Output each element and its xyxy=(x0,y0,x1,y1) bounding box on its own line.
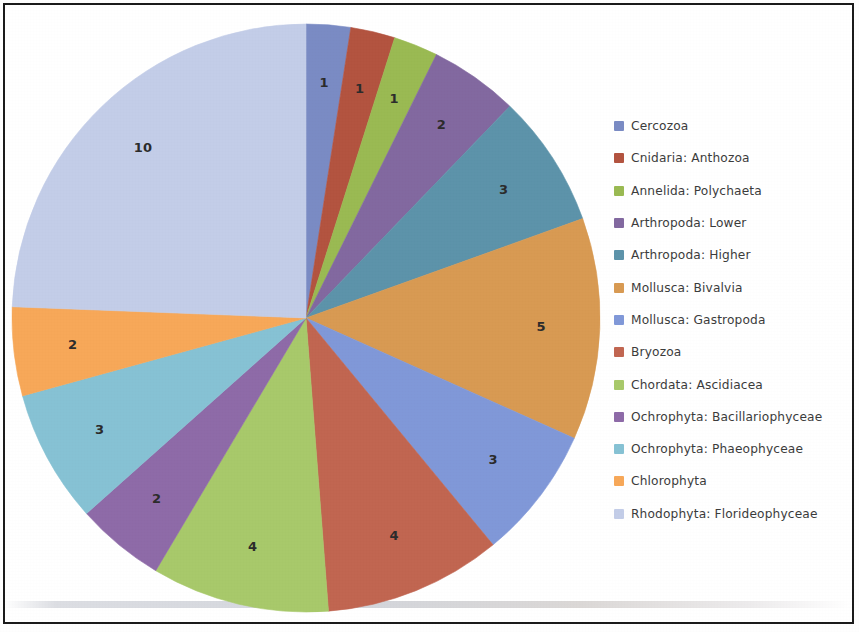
legend-item[interactable]: Chlorophyta xyxy=(614,465,854,497)
pie-slice-value-label: 1 xyxy=(355,81,364,96)
legend-color-swatch-icon xyxy=(614,412,624,422)
legend-item[interactable]: Cercozoa xyxy=(614,110,854,142)
pie-slice-value-label: 1 xyxy=(319,75,328,90)
legend-color-swatch-icon xyxy=(614,347,624,357)
legend-item[interactable]: Chordata: Ascidiacea xyxy=(614,368,854,400)
pie-slice-value-label: 3 xyxy=(489,452,498,467)
legend-color-swatch-icon xyxy=(614,283,624,293)
legend-item[interactable]: Mollusca: Gastropoda xyxy=(614,304,854,336)
legend-item[interactable]: Arthropoda: Higher xyxy=(614,239,854,271)
pie-slice-value-label: 3 xyxy=(499,182,508,197)
legend-item-label: Bryozoa xyxy=(631,345,681,359)
legend-color-swatch-icon xyxy=(614,121,624,131)
legend-item[interactable]: Mollusca: Bivalvia xyxy=(614,271,854,303)
legend-item[interactable]: Annelida: Polychaeta xyxy=(614,175,854,207)
legend-item-label: Annelida: Polychaeta xyxy=(631,184,762,198)
pie-slice-value-label: 5 xyxy=(536,319,545,334)
pie-slice-value-label: 10 xyxy=(134,140,152,155)
legend-color-swatch-icon xyxy=(614,186,624,196)
legend-color-swatch-icon xyxy=(614,250,624,260)
legend-color-swatch-icon xyxy=(614,444,624,454)
legend-color-swatch-icon xyxy=(614,153,624,163)
legend-item[interactable]: Ochrophyta: Phaeophyceae xyxy=(614,433,854,465)
legend-item-label: Ochrophyta: Bacillariophyceae xyxy=(631,410,822,424)
legend-item-label: Cnidaria: Anthozoa xyxy=(631,151,750,165)
legend-color-swatch-icon xyxy=(614,218,624,228)
legend-item-label: Arthropoda: Higher xyxy=(631,248,751,262)
legend-color-swatch-icon xyxy=(614,476,624,486)
legend-item-label: Cercozoa xyxy=(631,119,688,133)
legend-item[interactable]: Arthropoda: Lower xyxy=(614,207,854,239)
pie-slice-value-label: 4 xyxy=(389,528,398,543)
legend-item-label: Chordata: Ascidiacea xyxy=(631,378,763,392)
legend-color-swatch-icon xyxy=(614,315,624,325)
legend-item-label: Chlorophyta xyxy=(631,474,707,488)
legend-item-label: Ochrophyta: Phaeophyceae xyxy=(631,442,803,456)
legend-color-swatch-icon xyxy=(614,380,624,390)
legend-item[interactable]: Ochrophyta: Bacillariophyceae xyxy=(614,401,854,433)
legend-item[interactable]: Cnidaria: Anthozoa xyxy=(614,142,854,174)
legend-item[interactable]: Bryozoa xyxy=(614,336,854,368)
legend-item-label: Mollusca: Gastropoda xyxy=(631,313,766,327)
pie-slice-value-label: 4 xyxy=(248,539,257,554)
legend-item-label: Mollusca: Bivalvia xyxy=(631,281,743,295)
chart-legend: CercozoaCnidaria: AnthozoaAnnelida: Poly… xyxy=(614,110,854,530)
legend-color-swatch-icon xyxy=(614,509,624,519)
pie-slice-value-label: 2 xyxy=(68,337,77,352)
legend-item[interactable]: Rhodophyta: Florideophyceae xyxy=(614,498,854,530)
pie-slice-value-label: 3 xyxy=(95,422,104,437)
legend-item-label: Rhodophyta: Florideophyceae xyxy=(631,507,818,521)
legend-item-label: Arthropoda: Lower xyxy=(631,216,747,230)
pie-slice-value-label: 2 xyxy=(152,491,161,506)
pie-slice-value-label: 2 xyxy=(437,117,446,132)
pie-slice-value-label: 1 xyxy=(389,91,398,106)
chart-screenshot: 11123534423210 CercozoaCnidaria: Anthozo… xyxy=(0,0,859,632)
pie-slice[interactable] xyxy=(12,24,306,318)
